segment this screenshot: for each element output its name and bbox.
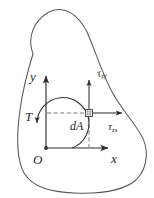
area-element-label: dA — [70, 120, 83, 132]
tau-zy-subscript: zy — [101, 71, 107, 79]
figure-canvas — [0, 0, 154, 198]
origin-dot — [44, 146, 48, 150]
torque-label: T — [25, 110, 32, 123]
x-axis-label: x — [111, 152, 117, 165]
origin-label: O — [33, 153, 42, 166]
tau-zx-subscript: zx — [112, 126, 117, 133]
tau-zx-label: τzx — [108, 121, 117, 134]
tau-zy-label: τzy — [96, 67, 107, 81]
torsion-cross-section-figure: y x O T dA τzy τzx — [0, 0, 154, 198]
area-element-dA — [86, 110, 93, 117]
y-axis-label: y — [30, 70, 36, 83]
